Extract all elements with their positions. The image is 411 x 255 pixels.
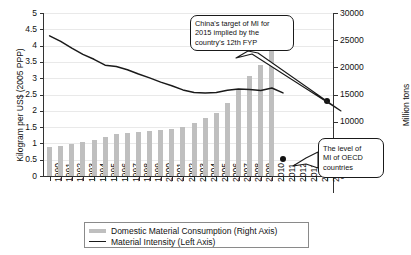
- bar: [236, 90, 241, 176]
- y2-tick: [334, 95, 338, 96]
- y-tick-label: 2.5: [3, 90, 37, 98]
- x-tick: [61, 177, 62, 181]
- gridline: [44, 160, 333, 161]
- x-tick: [283, 177, 284, 181]
- y-tick-label: 4: [3, 41, 37, 49]
- y2-tick-label: 30000: [340, 9, 382, 17]
- y2-tick: [334, 40, 338, 41]
- y2-tick: [334, 67, 338, 68]
- marker-oecd-level: [280, 156, 286, 162]
- bar: [247, 76, 252, 176]
- y-tick: [40, 62, 44, 63]
- bar: [80, 142, 85, 176]
- bar: [69, 144, 74, 176]
- y-tick-label: 3: [3, 74, 37, 82]
- x-tick: [272, 177, 273, 181]
- bar: [225, 103, 230, 176]
- x-tick: [127, 177, 128, 181]
- china-target-callout: China's target of MI for 2015 implied by…: [190, 15, 294, 51]
- gridline: [44, 78, 333, 79]
- x-tick: [161, 177, 162, 181]
- y-tick-label: 4.5: [3, 25, 37, 33]
- callout-oecd-line2: MI of OECD: [323, 153, 379, 162]
- x-tick: [94, 177, 95, 181]
- gridline: [44, 13, 333, 14]
- callout-oecd-line3: countries: [323, 163, 379, 172]
- x-tick: [105, 177, 106, 181]
- marker-china-2015-target: [324, 98, 330, 104]
- y2-tick: [334, 13, 338, 14]
- y2-tick-label: 25000: [340, 36, 382, 44]
- y-axis-right-title: Million tons: [401, 35, 411, 175]
- y-tick-label: 1: [3, 139, 37, 147]
- x-tick: [205, 177, 206, 181]
- legend-item-mi: Material Intensity (Left Axis): [89, 236, 304, 247]
- y-tick: [40, 29, 44, 30]
- bar: [158, 130, 163, 177]
- bar: [103, 137, 108, 176]
- callout-oecd-line1: The level of: [323, 144, 379, 153]
- legend-item-dmc: Domestic Material Consumption (Right Axi…: [89, 225, 304, 236]
- bar: [203, 118, 208, 176]
- x-tick: [139, 177, 140, 181]
- oecd-level-callout: The level of MI of OECD countries: [318, 138, 384, 178]
- x-tick: [194, 177, 195, 181]
- gridline: [44, 95, 333, 96]
- y-tick: [40, 176, 44, 177]
- x-tick-label: 2011: [287, 164, 297, 182]
- x-tick: [305, 177, 306, 181]
- chart-legend: Domestic Material Consumption (Right Axi…: [84, 222, 309, 248]
- bar: [47, 147, 52, 176]
- gridline: [44, 62, 333, 63]
- y-tick-label: 1.5: [3, 123, 37, 131]
- x-tick: [294, 177, 295, 181]
- callout-target-line1: China's target of MI for: [195, 19, 289, 28]
- bar: [114, 134, 119, 176]
- legend-label-mi: Material Intensity (Left Axis): [111, 237, 215, 247]
- callout-target-line2: 2015 implied by the: [195, 28, 289, 37]
- bar: [192, 123, 197, 176]
- x-tick: [72, 177, 73, 181]
- y-tick-label: 0: [3, 172, 37, 180]
- line-swatch-icon: [89, 241, 106, 242]
- y-tick: [40, 111, 44, 112]
- y2-tick-label: 10000: [340, 117, 382, 125]
- bar: [180, 127, 185, 176]
- gridline: [44, 143, 333, 144]
- x-tick: [227, 177, 228, 181]
- x-tick-label: 2010: [276, 163, 286, 182]
- gridline: [44, 111, 333, 112]
- gridline: [44, 127, 333, 128]
- x-tick: [250, 177, 251, 181]
- y-tick-label: 2: [3, 106, 37, 114]
- legend-label-dmc: Domestic Material Consumption (Right Axi…: [111, 226, 277, 236]
- x-tick: [183, 177, 184, 181]
- x-tick: [316, 177, 317, 181]
- y-tick-label: 3.5: [3, 57, 37, 65]
- x-tick: [216, 177, 217, 181]
- bar: [214, 113, 219, 176]
- callout-target-line3: country's 12th FYP: [195, 38, 289, 47]
- bar: [147, 131, 152, 176]
- y-tick: [40, 160, 44, 161]
- y-tick: [40, 78, 44, 79]
- bar: [258, 65, 263, 176]
- bar: [92, 140, 97, 176]
- bar: [125, 133, 130, 176]
- x-tick: [83, 177, 84, 181]
- x-tick: [116, 177, 117, 181]
- x-tick-label: 2012: [298, 163, 308, 182]
- y-tick: [40, 95, 44, 96]
- x-tick: [150, 177, 151, 181]
- x-tick: [50, 177, 51, 181]
- y2-tick-label: 20000: [340, 63, 382, 71]
- y2-tick-label: 15000: [340, 90, 382, 98]
- y-tick: [40, 46, 44, 47]
- bar-swatch-icon: [89, 229, 106, 233]
- y-tick-label: 0.5: [3, 155, 37, 163]
- y-tick: [40, 143, 44, 144]
- bar: [269, 33, 274, 176]
- y-tick-label: 5: [3, 9, 37, 17]
- y2-tick: [334, 122, 338, 123]
